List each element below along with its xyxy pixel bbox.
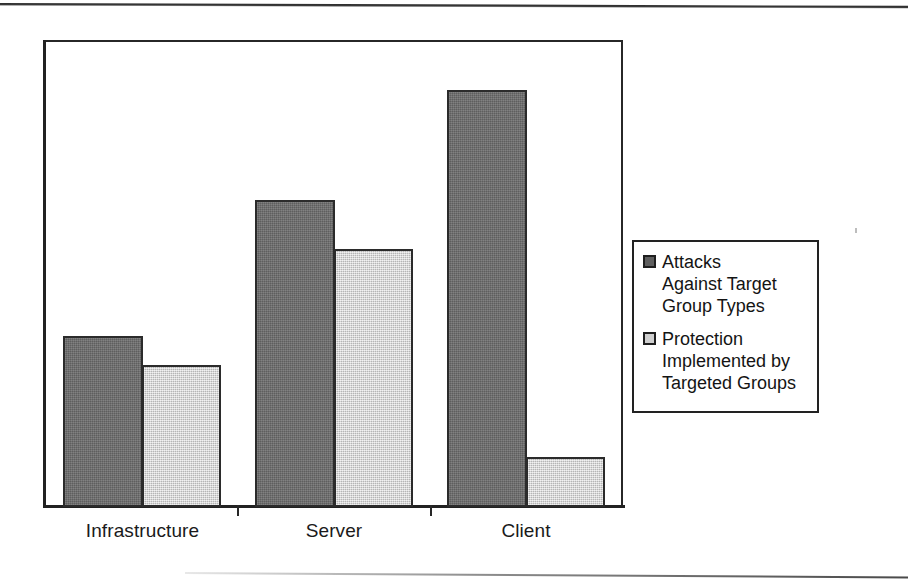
chart-legend: Attacks Against Target Group Types Prote… — [632, 240, 819, 413]
scan-speck — [855, 228, 857, 233]
legend-label-attacks: Attacks Against Target Group Types — [662, 251, 777, 317]
x-axis-label-server: Server — [255, 520, 413, 542]
bar-infrastructure-attacks[interactable] — [63, 336, 143, 507]
y-axis-line — [43, 40, 46, 508]
bar-infrastructure-protection[interactable] — [142, 365, 221, 507]
x-axis-tick-2 — [430, 505, 432, 516]
legend-label-protection: Protection Implemented by Targeted Group… — [662, 328, 796, 394]
x-axis-label-client: Client — [447, 520, 605, 542]
bar-server-protection[interactable] — [334, 249, 413, 507]
page-top-rule — [0, 3, 908, 9]
legend-entry-attacks[interactable]: Attacks Against Target Group Types — [643, 251, 809, 317]
legend-swatch-icon-protection — [643, 332, 656, 345]
bar-server-attacks[interactable] — [255, 200, 335, 507]
chart-page: Infrastructure Server Client Attacks Aga… — [0, 0, 908, 583]
page-bottom-rule — [185, 572, 908, 578]
x-axis-label-infrastructure: Infrastructure — [60, 520, 225, 542]
bar-client-attacks[interactable] — [447, 90, 527, 507]
legend-swatch-icon-attacks — [643, 255, 656, 268]
x-axis-tick-1 — [237, 505, 239, 516]
bar-client-protection[interactable] — [526, 457, 605, 507]
legend-entry-protection[interactable]: Protection Implemented by Targeted Group… — [643, 328, 809, 394]
